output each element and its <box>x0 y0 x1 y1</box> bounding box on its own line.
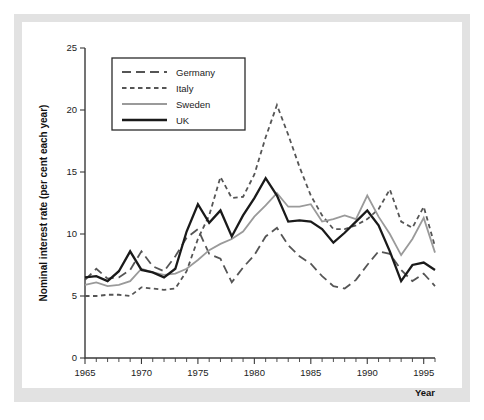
series-line-italy <box>85 105 435 296</box>
axis-titles: Nominal interest rate (per cent each yea… <box>38 105 435 398</box>
x-tick-label: 1985 <box>300 367 321 378</box>
series-line-sweden <box>85 193 435 286</box>
y-tick-label: 0 <box>72 352 77 363</box>
legend-label-italy: Italy <box>176 83 194 94</box>
chart-legend: GermanyItalySwedenUK <box>112 58 245 130</box>
y-tick-label: 15 <box>66 166 77 177</box>
x-tick-label: 1980 <box>244 367 265 378</box>
y-axis-title: Nominal interest rate (per cent each yea… <box>38 105 49 302</box>
y-tick-label: 25 <box>66 42 77 53</box>
legend-label-germany: Germany <box>176 67 215 78</box>
x-tick-label: 1975 <box>187 367 208 378</box>
x-tick-label: 1995 <box>413 367 434 378</box>
x-tick-label: 1990 <box>357 367 378 378</box>
line-chart: 05101520251965197019751980198519901995 G… <box>0 0 484 420</box>
legend-label-sweden: Sweden <box>176 99 210 110</box>
series-line-uk <box>85 178 435 281</box>
y-tick-label: 10 <box>66 228 77 239</box>
legend-label-uk: UK <box>176 115 190 126</box>
x-tick-label: 1965 <box>74 367 95 378</box>
x-axis-title: Year <box>415 387 435 398</box>
chart-figure: 05101520251965197019751980198519901995 G… <box>0 0 484 420</box>
y-tick-label: 20 <box>66 104 77 115</box>
y-tick-label: 5 <box>72 290 77 301</box>
x-tick-label: 1970 <box>131 367 152 378</box>
series-lines <box>85 105 435 296</box>
